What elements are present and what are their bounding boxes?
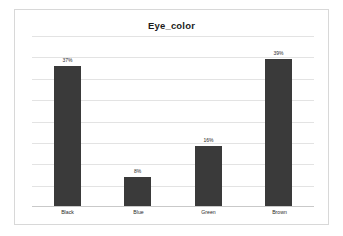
- bar-group[interactable]: 39%: [265, 36, 292, 207]
- bar-group[interactable]: 8%: [124, 36, 151, 207]
- category-label: Green: [173, 210, 244, 215]
- bar-group[interactable]: 37%: [54, 36, 81, 207]
- bar[interactable]: [195, 146, 222, 207]
- category-axis: BlackBlueGreenBrown: [32, 210, 314, 222]
- bar-value-label: 16%: [181, 138, 236, 143]
- x-axis-line: [32, 206, 314, 207]
- bar[interactable]: [124, 177, 151, 207]
- bar-value-label: 39%: [251, 51, 306, 56]
- chart-figure: Eye_color 37%8%16%39% BlackBlueGreenBrow…: [14, 9, 329, 225]
- category-label: Brown: [244, 210, 315, 215]
- bar[interactable]: [54, 66, 81, 207]
- bar[interactable]: [265, 59, 292, 207]
- category-label: Blue: [103, 210, 174, 215]
- plot-area: 37%8%16%39%: [32, 36, 314, 207]
- bar-value-label: 8%: [110, 169, 165, 174]
- chart-title: Eye_color: [15, 20, 328, 31]
- bars-layer: 37%8%16%39%: [32, 36, 314, 207]
- category-label: Black: [32, 210, 103, 215]
- bar-value-label: 37%: [40, 58, 95, 63]
- bar-group[interactable]: 16%: [195, 36, 222, 207]
